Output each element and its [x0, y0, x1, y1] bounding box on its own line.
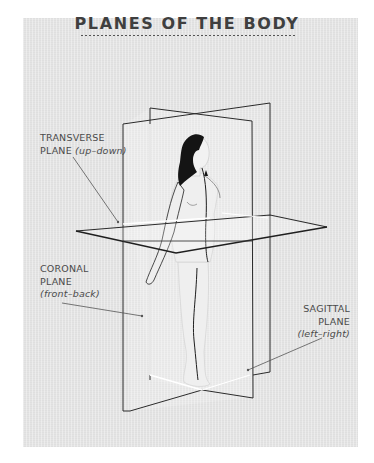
sagittal-label-direction: (left–right) [280, 328, 350, 341]
coronal-label-line1: CORONAL [40, 263, 100, 276]
coronal-plane-label: CORONAL PLANE (front–back) [40, 263, 100, 301]
transverse-leader-line [73, 157, 118, 222]
sagittal-leader-dot [247, 369, 249, 371]
coronal-leader-dot [141, 315, 143, 317]
transverse-plane-label: TRANSVERSE PLANE (up–down) [40, 132, 127, 157]
sagittal-label-line2: PLANE [280, 316, 350, 329]
sagittal-label-line1: SAGITTAL [280, 303, 350, 316]
planes-illustration [0, 0, 374, 463]
transverse-label-line1: TRANSVERSE [40, 132, 127, 145]
transverse-label-direction: (up–down) [75, 145, 127, 156]
coronal-label-line2: PLANE [40, 276, 100, 289]
sagittal-plane-label: SAGITTAL PLANE (left–right) [280, 303, 350, 341]
transverse-label-line2: PLANE [40, 145, 75, 156]
transverse-leader-dot [117, 221, 119, 223]
coronal-label-direction: (front–back) [40, 288, 100, 301]
